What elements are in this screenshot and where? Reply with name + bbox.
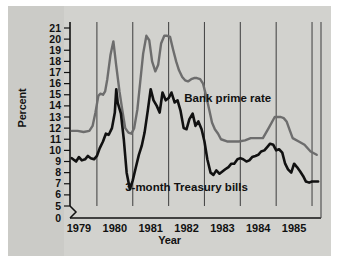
data-series-group <box>72 36 318 190</box>
line-chart-svg: 212019181716151413121110987650 197919801… <box>8 6 331 256</box>
x-axis-tick-label: 1983 <box>210 222 234 234</box>
x-axis-tick-labels-group: 1979198019811982198319841985 <box>67 222 307 234</box>
x-axis-title: Year <box>8 234 331 246</box>
y-axis-title: Percent <box>16 78 28 138</box>
x-axis-tick-label: 1985 <box>282 222 306 234</box>
y-axis-tick-label: 5 <box>55 200 61 212</box>
y-axis-ticks-group <box>64 28 70 206</box>
chart-figure: 212019181716151413121110987650 197919801… <box>8 6 331 256</box>
x-axis-tick-label: 1981 <box>138 222 162 234</box>
series-label: 3-month Treasury bills <box>125 181 248 193</box>
x-axis-tick-label: 1980 <box>103 222 127 234</box>
data-line <box>72 89 318 189</box>
axis-break-zigzag <box>70 206 76 218</box>
gridlines-group <box>97 22 312 206</box>
plot-area: 212019181716151413121110987650 197919801… <box>8 6 331 256</box>
x-axis-tick-label: 1984 <box>246 222 271 234</box>
y-axis-tick-label: 0 <box>55 212 61 224</box>
y-axis-tick-labels-group: 212019181716151413121110987650 <box>49 22 61 224</box>
x-axis-tick-label: 1979 <box>67 222 91 234</box>
x-axis-tick-label: 1982 <box>174 222 198 234</box>
y-axis-break-marker <box>70 206 76 218</box>
series-label: Bank prime rate <box>184 92 271 104</box>
